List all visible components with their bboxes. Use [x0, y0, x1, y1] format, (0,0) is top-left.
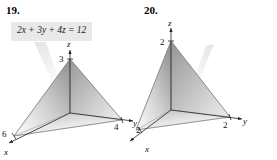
equation-callout-19: 2x + 3y + 4z = 12 [11, 22, 92, 41]
problem-20: 20. [138, 0, 277, 160]
y-intercept-label-19: 4 [114, 122, 119, 132]
x-axis-label-20: x [144, 144, 149, 154]
y-intercept-label-20: 2 [223, 120, 228, 130]
x-axis-label-19: x [3, 147, 8, 157]
y-axis-label-20: y [242, 116, 247, 126]
diagram-20: z y x 2 2 2 [138, 0, 277, 160]
x-intercept-label-19: 6 [2, 129, 7, 139]
z-axis-label-19: z [66, 39, 71, 49]
z-intercept-label-20: 2 [160, 37, 165, 47]
x-intercept-label-20: 2 [136, 125, 141, 135]
z-axis-label-20: z [167, 18, 172, 28]
problem-19: 19. [0, 0, 139, 160]
figure-sheet: 19. [0, 0, 277, 160]
z-intercept-label-19: 3 [59, 54, 64, 64]
